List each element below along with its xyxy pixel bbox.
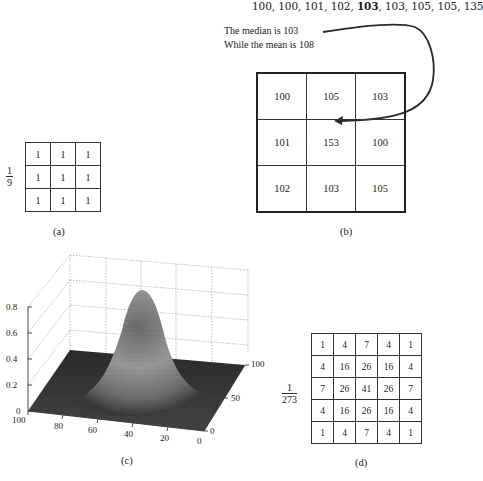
grid-cell: 26 [356,356,378,378]
grid-cell: 101 [257,120,307,166]
grid-cell-center: 41 [356,378,378,400]
z-tick: 0.6 [6,328,17,338]
grid-cell: 100 [257,73,307,120]
grid-cell-center: 153 [307,120,356,166]
grid-cell: 7 [312,378,334,400]
grid-cell: 4 [312,356,334,378]
grid-row: 111 [26,166,101,189]
fraction-numerator: 1 [6,165,13,177]
grid-cell: 4 [334,334,356,356]
grid-cell: 26 [334,378,356,400]
grid-cell: 1 [51,166,76,189]
grid-cell: 1 [26,143,51,166]
z-tick: 0.2 [6,380,17,390]
grid-row: 14741 [312,422,422,444]
fraction-denominator: 273 [282,394,297,405]
grid-cell: 7 [356,422,378,444]
grid-cell: 4 [312,400,334,422]
grid-cell: 16 [334,356,356,378]
panel-label-c: (c) [121,455,133,466]
mean-filter-kernel: 111 111 111 [25,142,101,212]
y-tick: 0 [210,426,215,436]
median-neighborhood-grid: 100105103 101153100 102103105 [256,72,406,213]
fraction-denominator: 9 [6,177,13,188]
grid-cell: 16 [378,400,400,422]
grid-row: 14741 [312,334,422,356]
grid-cell: 103 [356,73,406,120]
grid-cell: 1 [51,189,76,212]
x-tick: 0 [197,436,202,446]
grid-row: 111 [26,189,101,212]
grid-cell: 4 [400,400,422,422]
x-tick: 40 [124,429,133,439]
grid-cell: 16 [378,356,400,378]
x-tick: 100 [12,415,26,425]
grid-cell: 1 [400,422,422,444]
y-tick: 50 [231,393,240,403]
grid-cell: 1 [312,334,334,356]
panel-label-b: (b) [340,226,352,237]
grid-cell: 1 [26,189,51,212]
z-tick: 0.4 [6,354,17,364]
grid-cell: 100 [356,120,406,166]
grid-row: 111 [26,143,101,166]
grid-cell: 102 [257,166,307,213]
grid-cell: 26 [356,400,378,422]
panel-label-a: (a) [53,226,65,237]
grid-row: 41626164 [312,400,422,422]
grid-row: 102103105 [257,166,405,213]
gaussian-surface-plot [0,250,260,440]
grid-row: 41626164 [312,356,422,378]
grid-cell: 1 [26,166,51,189]
grid-cell: 1 [51,143,76,166]
x-tick: 60 [88,425,97,435]
z-tick: 0.8 [6,302,17,312]
grid-cell: 105 [356,166,406,213]
z-axis [28,307,32,411]
grid-cell: 4 [378,334,400,356]
grid-cell: 105 [307,73,356,120]
gaussian-kernel-grid: 14741 41626164 72641267 41626164 14741 [311,333,422,444]
grid-cell: 1 [76,143,101,166]
panel-label-d: (d) [355,457,367,468]
grid-cell: 1 [312,422,334,444]
x-tick: 80 [54,421,63,431]
fraction-numerator: 1 [282,382,297,394]
grid-cell: 26 [378,378,400,400]
grid-row: 72641267 [312,378,422,400]
grid-cell: 4 [334,422,356,444]
grid-cell: 7 [400,378,422,400]
y-tick: 100 [251,359,265,369]
grid-cell: 16 [334,400,356,422]
fraction-one-ninth: 1 9 [6,165,13,188]
fraction-one-over-273: 1 273 [282,382,297,405]
grid-cell: 1 [76,189,101,212]
grid-cell: 1 [76,166,101,189]
x-tick: 20 [160,433,169,443]
grid-row: 100105103 [257,73,405,120]
grid-cell: 103 [307,166,356,213]
grid-cell: 4 [378,422,400,444]
grid-cell: 1 [400,334,422,356]
grid-cell: 4 [400,356,422,378]
grid-row: 101153100 [257,120,405,166]
grid-cell: 7 [356,334,378,356]
